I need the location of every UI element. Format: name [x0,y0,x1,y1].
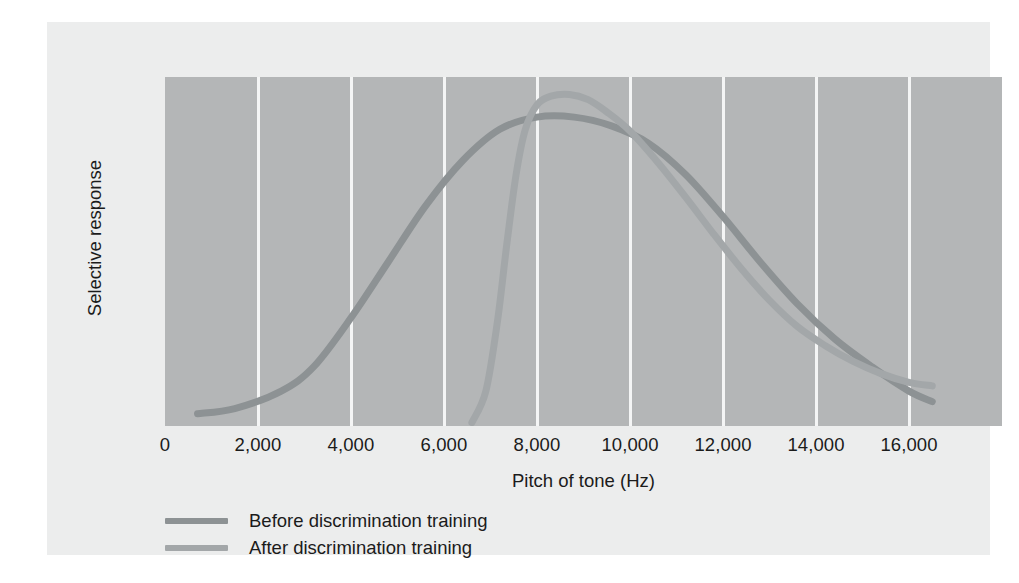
x-tick-label: 10,000 [601,434,658,456]
legend-swatch [165,545,228,551]
legend-item: Before discrimination training [165,509,488,532]
x-tick-label: 2,000 [235,434,282,456]
x-tick-label: 14,000 [787,434,844,456]
legend-item: After discrimination training [165,536,488,559]
plot-area [165,77,1002,426]
curve-svg [165,77,1002,426]
x-tick-label: 4,000 [328,434,375,456]
x-tick-label: 0 [160,434,170,456]
series-line [198,116,933,414]
x-axis-title: Pitch of tone (Hz) [165,470,1002,492]
x-axis-tick-labels: 02,0004,0006,0008,00010,00012,00014,0001… [165,434,1002,458]
legend-label: After discrimination training [249,537,472,559]
series-line [472,94,932,422]
legend-swatch [165,518,228,524]
x-tick-label: 16,000 [880,434,937,456]
x-tick-label: 6,000 [421,434,468,456]
x-tick-label: 12,000 [694,434,751,456]
figure-card: 02,0004,0006,0008,00010,00012,00014,0001… [47,22,990,555]
y-axis-title: Selective response [84,128,106,348]
chart-legend: Before discrimination trainingAfter disc… [165,509,488,559]
legend-label: Before discrimination training [249,510,488,532]
x-tick-label: 8,000 [514,434,561,456]
